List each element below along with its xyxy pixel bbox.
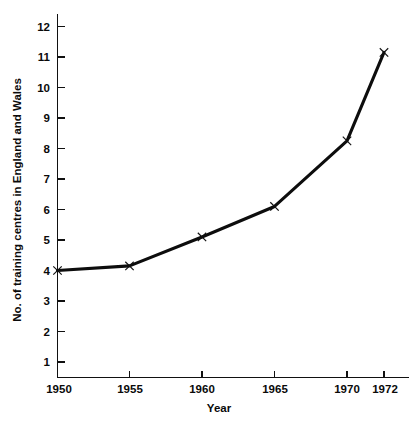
y-tick-label: 10 [37,82,50,94]
y-tick-label: 1 [44,356,51,368]
x-tick-label: 1955 [117,383,143,395]
x-tick-label: 1965 [262,383,288,395]
y-tick-label: 12 [37,21,50,33]
x-tick-label: 1950 [46,383,72,395]
y-tick-label: 4 [44,265,51,277]
y-tick-label: 8 [44,143,51,155]
y-tick-label: 7 [44,173,50,185]
y-tick-marks [58,27,65,363]
data-series-line [58,52,385,270]
y-tick-label: 5 [44,234,51,246]
data-point-markers [53,48,388,274]
y-tick-label: 11 [38,51,51,63]
y-tick-label: 2 [44,326,50,338]
y-tick-label: 9 [44,112,50,124]
x-tick-label: 1970 [334,383,360,395]
y-axis-title: No. of training centres in England and W… [11,78,23,322]
y-tick-labels: 1 2 3 4 5 6 7 8 9 10 11 12 [37,21,50,369]
x-axis-title: Year [207,402,232,414]
chart-figure: No. of training centres in England and W… [0,0,417,427]
x-tick-labels: 1950 1955 1960 1965 1970 1972 [46,383,398,395]
y-tick-label: 6 [44,204,50,216]
axis-spines [58,14,410,378]
x-tick-marks [58,371,385,378]
x-tick-label: 1960 [189,383,215,395]
line-chart-canvas: No. of training centres in England and W… [0,0,417,427]
y-tick-label: 3 [44,295,50,307]
x-tick-label: 1972 [372,383,398,395]
